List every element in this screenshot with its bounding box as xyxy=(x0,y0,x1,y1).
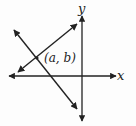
x-axis-label: x xyxy=(117,68,125,83)
y-axis-label: y xyxy=(77,1,86,16)
coordinate-diagram: y x (a, b) xyxy=(0,0,136,126)
decreasing-line xyxy=(14,30,77,109)
diagram-svg: y x (a, b) xyxy=(0,0,136,126)
intersection-point xyxy=(35,56,38,59)
intersection-label: (a, b) xyxy=(44,51,76,65)
